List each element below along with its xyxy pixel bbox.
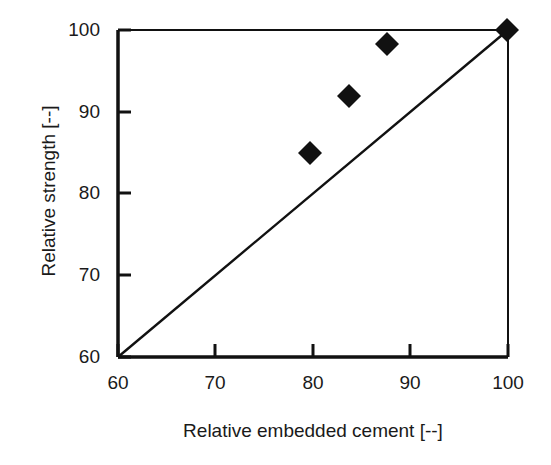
x-tick-label-60: 60 [88,372,148,394]
y-tick-label-100: 100 [54,19,100,41]
y-tick-label-90: 90 [54,101,100,123]
x-tick-label-80: 80 [283,372,343,394]
x-tick-label-100: 100 [478,372,538,394]
y-tick-label-70: 70 [54,264,100,286]
scatter-chart: 100 90 80 70 60 60 70 80 90 100 Relative… [0,0,551,465]
x-axis-ticks [118,344,508,357]
data-series-measured [298,18,519,165]
chart-page: 100 90 80 70 60 60 70 80 90 100 Relative… [0,0,551,465]
y-tick-label-60: 60 [54,346,100,368]
y-axis-ticks [118,30,131,357]
x-tick-label-90: 90 [380,372,440,394]
x-axis-title: Relative embedded cement [--] [118,420,508,442]
y-tick-label-80: 80 [54,182,100,204]
data-point-marker [337,84,361,108]
x-tick-label-70: 70 [185,372,245,394]
plot-canvas [0,0,551,465]
data-point-marker [298,141,322,165]
data-point-marker [375,32,399,56]
parity-reference-line [118,30,508,357]
y-axis-title: Relative strength [--] [38,56,60,326]
